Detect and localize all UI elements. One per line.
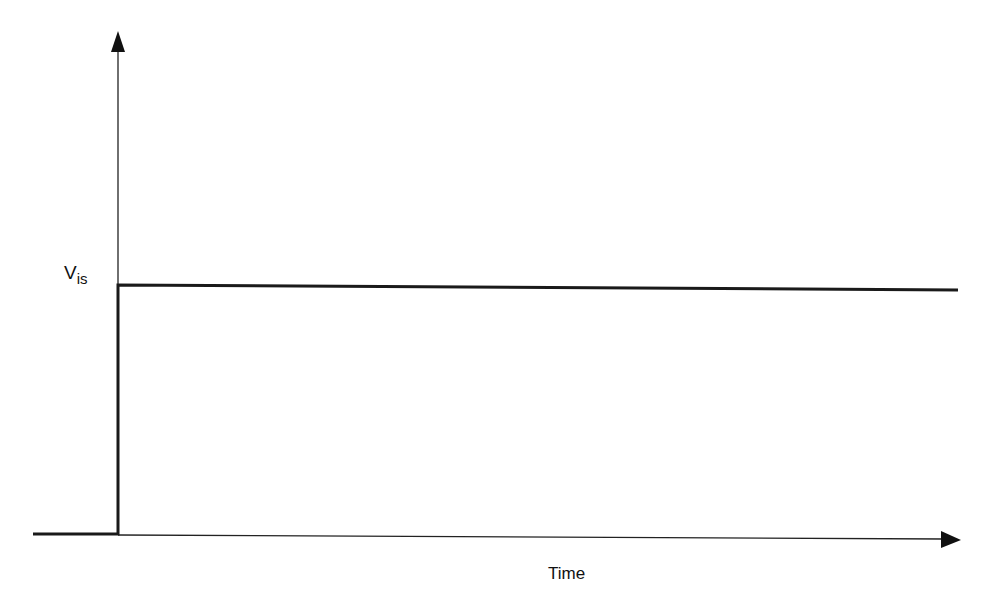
x-axis-arrow-icon [941,531,961,548]
y-axis-arrow-icon [111,31,125,52]
level-label: Vis [64,262,88,287]
step-signal-line [33,285,958,534]
x-axis-label: Time [548,564,585,584]
step-plot [0,0,988,606]
x-axis [118,535,944,539]
